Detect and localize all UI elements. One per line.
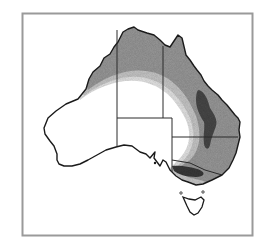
map-figure: Greyscale map of Australia with state bo… — [0, 0, 274, 252]
island-kangaroo — [154, 162, 156, 164]
